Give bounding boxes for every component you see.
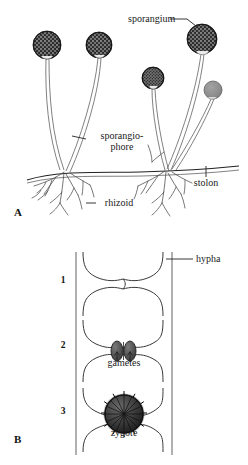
sporangium-1 [33,31,61,59]
label-sporangiophore-line2: phore [111,141,134,152]
stage-number-1: 1 [61,275,66,285]
sporangium-5-immature [204,81,222,99]
sporangium-leader [187,19,196,26]
fungus-life-cycle-figure: sporangium sporangio- phore stolon rhizo… [0,0,248,465]
panel-letter-a: A [14,206,22,218]
rhizoid-cluster-right [134,145,192,216]
stage-number-2: 2 [61,340,66,350]
label-rhizoid: rhizoid [105,197,133,208]
label-stolon: stolon [194,177,218,188]
sporangium-4 [142,67,164,89]
figure-canvas: sporangium sporangio- phore stolon rhizo… [0,0,248,465]
label-sporangiophore-line1: sporangio- [101,130,144,141]
panel-b-group: 1 gametes 2 [14,252,221,455]
sporangium-3 [187,24,217,55]
panel-letter-b: B [14,433,22,445]
stage-number-3: 3 [61,406,66,416]
sporangiophore-stalks [46,54,214,172]
rhizoid-cluster-left [32,172,94,215]
label-zygote: zygote [111,427,138,438]
sporangium-2 [86,32,112,58]
label-gametes: gametes [108,357,141,368]
label-sporangium: sporangium [128,13,175,24]
panel-a-group: sporangium sporangio- phore stolon rhizo… [14,13,239,218]
label-hypha: hypha [196,253,221,264]
